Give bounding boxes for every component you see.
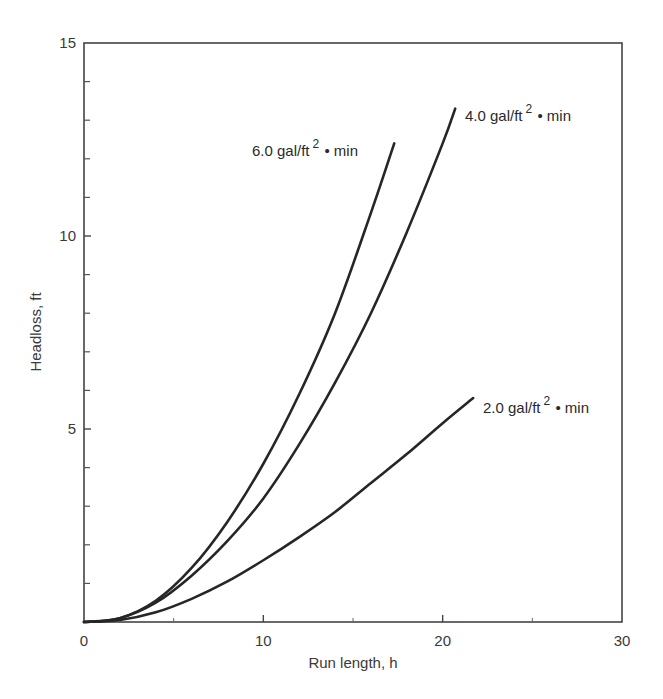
x-tick-label: 20 bbox=[434, 632, 451, 649]
curve-label: 2.0 gal/ft2 • min bbox=[483, 394, 589, 416]
tick-labels: 0102030051015 bbox=[59, 34, 630, 649]
curves bbox=[84, 109, 473, 622]
curve-series-0 bbox=[84, 143, 394, 622]
curve-label: 4.0 gal/ft2 • min bbox=[465, 102, 571, 124]
y-tick-label: 5 bbox=[68, 420, 76, 437]
y-tick-label: 15 bbox=[59, 34, 76, 51]
x-tick-label: 10 bbox=[255, 632, 272, 649]
x-axis-title: Run length, h bbox=[308, 654, 397, 671]
curve-labels: 6.0 gal/ft2 • min4.0 gal/ft2 • min2.0 ga… bbox=[252, 102, 589, 416]
y-tick-label: 10 bbox=[59, 227, 76, 244]
curve-series-1 bbox=[84, 109, 455, 622]
x-tick-label: 30 bbox=[614, 632, 631, 649]
curve-series-2 bbox=[84, 398, 473, 622]
headloss-chart: 0102030051015 6.0 gal/ft2 • min4.0 gal/f… bbox=[0, 0, 663, 699]
x-tick-label: 0 bbox=[80, 632, 88, 649]
y-axis-title: Headloss, ft bbox=[27, 292, 44, 372]
plot-frame bbox=[84, 43, 622, 622]
axis-ticks bbox=[84, 82, 532, 622]
curve-label: 6.0 gal/ft2 • min bbox=[252, 137, 358, 159]
